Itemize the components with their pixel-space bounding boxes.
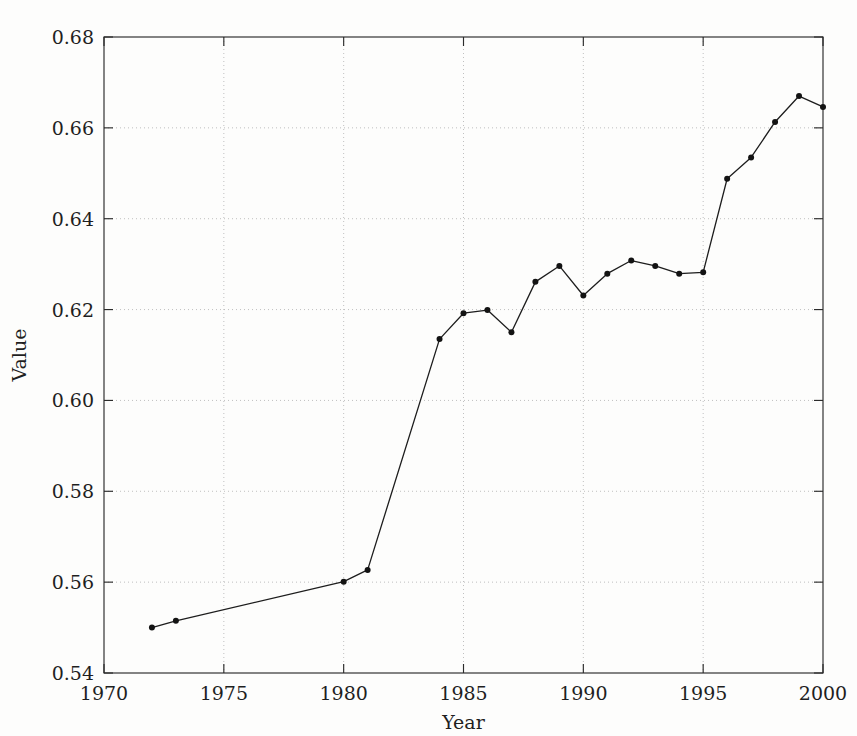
data-point	[149, 625, 155, 631]
data-point	[700, 269, 706, 275]
data-point	[676, 271, 682, 277]
x-tick-label: 2000	[799, 682, 847, 704]
data-point	[484, 307, 490, 313]
gridlines	[104, 37, 823, 673]
line-chart-svg: 1970197519801985199019952000 0.540.560.5…	[0, 0, 857, 736]
data-point	[365, 567, 371, 573]
x-tick-label: 1990	[559, 682, 607, 704]
data-point	[604, 271, 610, 277]
y-tick-label: 0.54	[52, 662, 94, 684]
x-tick-label: 1995	[679, 682, 727, 704]
y-tick-label: 0.60	[52, 389, 94, 411]
data-point	[772, 119, 778, 125]
data-point	[508, 329, 514, 335]
x-tick-label: 1970	[80, 682, 128, 704]
series-line	[152, 96, 823, 628]
data-point	[820, 104, 826, 110]
chart-figure: 1970197519801985199019952000 0.540.560.5…	[0, 0, 857, 736]
data-point	[341, 579, 347, 585]
data-markers	[149, 93, 826, 631]
x-tick-labels: 1970197519801985199019952000	[80, 682, 847, 704]
y-tick-label: 0.68	[52, 26, 94, 48]
data-point	[796, 93, 802, 99]
y-axis-title: Value	[8, 329, 30, 383]
y-tick-label: 0.58	[52, 480, 94, 502]
data-point	[724, 176, 730, 182]
data-point	[556, 263, 562, 269]
y-tick-label: 0.64	[52, 208, 94, 230]
data-point	[437, 336, 443, 342]
x-axis-title: Year	[441, 711, 485, 733]
data-point	[580, 292, 586, 298]
x-tick-label: 1985	[439, 682, 487, 704]
data-point	[532, 279, 538, 285]
data-point	[173, 618, 179, 624]
y-tick-label: 0.66	[52, 117, 94, 139]
data-point	[628, 258, 634, 264]
y-tick-label: 0.62	[52, 299, 94, 321]
data-point	[748, 154, 754, 160]
x-tick-label: 1980	[319, 682, 367, 704]
y-tick-labels: 0.540.560.580.600.620.640.660.68	[52, 26, 94, 684]
data-point	[652, 263, 658, 269]
x-tick-label: 1975	[200, 682, 248, 704]
data-point	[461, 310, 467, 316]
y-tick-label: 0.56	[52, 571, 94, 593]
data-series	[152, 96, 823, 628]
top-cropped-text	[0, 0, 857, 14]
